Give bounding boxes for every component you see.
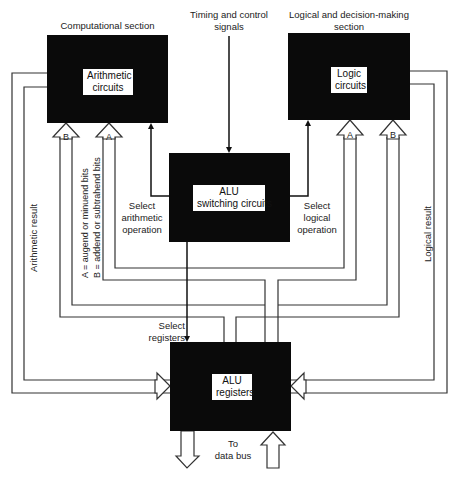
arithmetic-circuits-label: Arithmetic circuits xyxy=(83,69,133,95)
switching-circuits-label: ALU switching circuits xyxy=(193,185,265,211)
select-logic-line3: operation xyxy=(291,224,343,236)
computational-section-label: Computational section xyxy=(60,20,155,32)
arithmetic-result-label: Arithmetic result xyxy=(28,204,40,272)
select-arith-line2: arithmetic xyxy=(116,212,168,224)
select-arith-line3: operation xyxy=(116,224,168,236)
logical-section-label-line1: Logical and decision-making xyxy=(287,9,411,21)
alu-block-diagram xyxy=(0,0,462,481)
select-logic-line1: Select xyxy=(291,200,343,212)
logic-label-line1: Logic xyxy=(335,68,363,80)
select-logic-arrow-icon xyxy=(305,120,311,126)
logic-circuits-label: Logic circuits xyxy=(331,67,367,93)
registers-label-line2: registers xyxy=(216,387,248,399)
logical-section-label-line2: section xyxy=(287,21,411,33)
reg-right-arrowhead xyxy=(291,373,306,399)
registers-label: ALU registers xyxy=(212,374,252,400)
select-reg-line2: registers xyxy=(143,332,185,344)
reg-left-arrowhead xyxy=(155,373,170,399)
select-logical-label: Select logical operation xyxy=(291,200,343,236)
select-arith-arrow-icon xyxy=(148,123,154,129)
logic-a-label: A xyxy=(345,129,355,141)
select-arithmetic-label: Select arithmetic operation xyxy=(116,200,168,236)
timing-arrow-icon xyxy=(226,147,232,153)
logic-b-label: B xyxy=(388,129,398,141)
timing-label-line1: Timing and control xyxy=(189,9,269,21)
select-arith-line xyxy=(151,127,169,196)
switching-label-line2: switching circuits xyxy=(197,198,261,210)
select-logic-line2: logical xyxy=(291,212,343,224)
select-registers-label: Select registers xyxy=(143,320,185,344)
arithmetic-label-line1: Arithmetic xyxy=(87,70,129,82)
select-logic-line xyxy=(290,124,308,196)
arith-b-label: B xyxy=(61,131,71,143)
to-data-bus-label: To data bus xyxy=(211,438,255,462)
select-reg-line1: Select xyxy=(143,320,185,332)
logic-label-line2: circuits xyxy=(335,80,363,92)
arith-a-label: A xyxy=(104,131,114,143)
to-data-bus-line2: data bus xyxy=(211,450,255,462)
logical-result-label: Logical result xyxy=(422,206,434,262)
timing-label-line2: signals xyxy=(189,21,269,33)
legend-a-label: A = augend or minuend bits xyxy=(79,168,91,278)
legend-b-label: B = addend or subtrahend bits xyxy=(91,157,103,278)
to-data-bus-line1: To xyxy=(211,438,255,450)
to-data-bus-arrow xyxy=(176,431,199,468)
select-arith-line1: Select xyxy=(116,200,168,212)
switching-label-line1: ALU xyxy=(197,186,261,198)
registers-label-line1: ALU xyxy=(216,375,248,387)
from-data-bus-arrow xyxy=(261,432,285,468)
arithmetic-label-line2: circuits xyxy=(87,82,129,94)
